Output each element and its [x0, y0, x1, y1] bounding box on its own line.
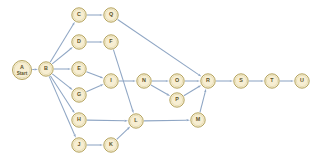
- graph-node-label-h: H: [77, 116, 81, 122]
- graph-edge-arrowhead-E-I: [100, 76, 104, 78]
- graph-edge-B-G: [52, 74, 70, 88]
- graph-edge-G-I: [86, 86, 100, 92]
- graph-node-p[interactable]: P: [170, 93, 184, 107]
- graph-node-g[interactable]: G: [72, 88, 86, 102]
- nodes-layer: AStartBCQDFEIGNOPRSTUHLMJK: [13, 8, 310, 152]
- graph-node-label-s: S: [239, 77, 243, 83]
- graph-edge-arrowhead-A-B: [35, 68, 38, 70]
- graph-node-label-o: O: [175, 77, 179, 83]
- graph-node-label-g: G: [77, 91, 81, 97]
- graph-node-label-d: D: [77, 38, 81, 44]
- graph-node-q[interactable]: Q: [104, 8, 118, 22]
- graph-edge-arrowhead-N-O: [166, 80, 169, 82]
- graph-node-l[interactable]: L: [129, 114, 143, 128]
- graph-edge-arrowhead-H-L: [125, 120, 128, 122]
- graph-node-label-r: R: [206, 77, 210, 83]
- graph-edge-arrowhead-O-R: [197, 80, 200, 82]
- graph-node-f[interactable]: F: [104, 35, 118, 49]
- graph-edge-B-J: [49, 76, 74, 134]
- graph-node-j[interactable]: J: [72, 138, 86, 152]
- graph-node-d[interactable]: D: [72, 35, 86, 49]
- graph-node-label-k: K: [109, 141, 113, 147]
- graph-node-r[interactable]: R: [201, 74, 215, 88]
- graph-node-k[interactable]: K: [104, 138, 118, 152]
- graph-edge-E-I: [86, 72, 100, 77]
- graph-edge-arrowhead-I-N: [133, 80, 136, 82]
- graph-edge-B-D: [52, 49, 70, 64]
- graph-node-a[interactable]: AStart: [13, 61, 32, 80]
- graph-edge-arrowhead-M-R: [204, 89, 206, 93]
- graph-node-label-p: P: [175, 96, 179, 102]
- graph-edge-H-L: [87, 120, 125, 121]
- graph-diagram-canvas: AStartBCQDFEIGNOPRSTUHLMJK: [0, 0, 313, 161]
- graph-node-h[interactable]: H: [72, 113, 86, 127]
- graph-node-o[interactable]: O: [170, 74, 184, 88]
- graph-node-b[interactable]: B: [39, 62, 53, 76]
- graph-node-label-n: N: [142, 77, 146, 83]
- graph-edge-arrowhead-B-E: [68, 68, 71, 70]
- graph-edge-N-P: [151, 85, 167, 94]
- graph-node-sublabel-a: Start: [17, 71, 28, 76]
- graph-edge-L-M: [144, 120, 187, 121]
- graph-node-label-j: J: [78, 141, 81, 147]
- edges-layer: [32, 14, 294, 146]
- graph-edge-arrowhead-B-J: [73, 134, 75, 138]
- graph-node-m[interactable]: M: [191, 113, 205, 127]
- graph-edge-K-L: [117, 129, 128, 140]
- graph-node-c[interactable]: C: [72, 8, 86, 22]
- graph-node-label-u: U: [300, 77, 304, 83]
- graph-edge-arrowhead-L-M: [187, 119, 190, 121]
- graph-edge-arrowhead-S-T: [261, 80, 264, 82]
- graph-node-u[interactable]: U: [295, 74, 309, 88]
- graph-edge-arrowhead-D-F: [100, 41, 103, 43]
- graph-node-label-a: A: [20, 64, 24, 70]
- graph-node-label-e: E: [77, 65, 81, 71]
- graph-node-label-m: M: [196, 116, 201, 122]
- graph-edge-M-R: [200, 92, 205, 112]
- graph-node-label-q: Q: [109, 11, 113, 17]
- graph-edge-arrowhead-C-Q: [100, 14, 103, 16]
- graph-edge-P-R: [184, 87, 198, 96]
- graph-node-n[interactable]: N: [137, 74, 151, 88]
- graph-edge-arrowhead-T-U: [291, 80, 294, 82]
- graph-node-s[interactable]: S: [234, 74, 248, 88]
- graph-edge-arrowhead-G-I: [100, 84, 104, 86]
- graph-node-label-b: B: [44, 65, 48, 71]
- graph-edge-arrowhead-J-K: [100, 144, 103, 146]
- graph-node-t[interactable]: T: [265, 74, 279, 88]
- graph-edge-arrowhead-R-S: [230, 80, 233, 82]
- graph-node-i[interactable]: I: [104, 74, 118, 88]
- graph-node-e[interactable]: E: [72, 62, 86, 76]
- graph-edge-arrowhead-F-L: [132, 110, 134, 114]
- graph-node-label-c: C: [77, 11, 81, 17]
- graph-svg: AStartBCQDFEIGNOPRSTUHLMJK: [0, 0, 313, 161]
- graph-edge-Q-R: [118, 20, 199, 75]
